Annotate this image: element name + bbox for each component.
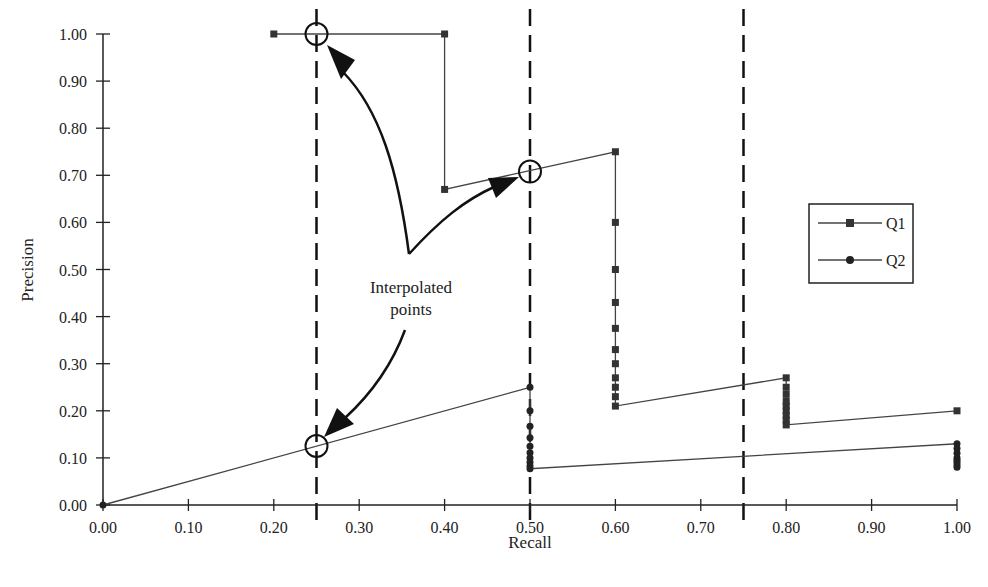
y-tick-label: 0.90 (59, 73, 87, 90)
annotation-arrow-right (409, 187, 494, 254)
arrowhead-icon (488, 177, 519, 198)
y-tick-label: 0.30 (59, 356, 87, 373)
arrowhead-icon (327, 45, 355, 79)
square-marker-icon (612, 360, 619, 367)
square-marker-icon (612, 346, 619, 353)
y-tick-label: 0.70 (59, 167, 87, 184)
square-marker-icon (612, 266, 619, 273)
annotation-arrow-lower (345, 330, 405, 418)
x-tick-label: 0.70 (687, 519, 715, 536)
y-tick-label: 0.40 (59, 309, 87, 326)
y-tick-label: 0.00 (59, 497, 87, 514)
circle-marker-icon (527, 465, 534, 472)
square-marker-icon (612, 374, 619, 381)
square-marker-icon (441, 31, 448, 38)
y-tick-label: 0.80 (59, 120, 87, 137)
square-marker-icon (783, 384, 790, 391)
circle-marker-icon (527, 434, 534, 441)
x-tick-label: 0.20 (260, 519, 288, 536)
x-tick-label: 0.90 (858, 519, 886, 536)
x-tick-label: 0.10 (174, 519, 202, 536)
square-marker-icon (612, 148, 619, 155)
circle-marker-icon (100, 502, 107, 509)
square-marker-icon (783, 391, 790, 398)
square-marker-icon (612, 393, 619, 400)
annotation-arrow-upper (343, 72, 409, 254)
square-marker-icon (612, 403, 619, 410)
y-tick-label: 0.60 (59, 214, 87, 231)
y-tick-label: 0.10 (59, 450, 87, 467)
square-marker-icon (612, 384, 619, 391)
legend-square-marker-icon (846, 219, 854, 227)
legend-label-q1: Q1 (886, 215, 906, 232)
square-marker-icon (783, 421, 790, 428)
square-marker-icon (270, 31, 277, 38)
square-marker-icon (612, 219, 619, 226)
x-axis-title: Recall (508, 533, 552, 552)
circle-marker-icon (527, 443, 534, 450)
square-marker-icon (612, 325, 619, 332)
y-tick-label: 0.50 (59, 262, 87, 279)
circle-marker-icon (527, 384, 534, 391)
square-marker-icon (441, 186, 448, 193)
x-tick-label: 0.80 (772, 519, 800, 536)
x-tick-label: 0.30 (345, 519, 373, 536)
annotation-label-line2: points (390, 300, 432, 319)
x-tick-label: 0.40 (431, 519, 459, 536)
legend-label-q2: Q2 (886, 252, 906, 269)
y-axis-title: Precision (18, 238, 37, 302)
x-tick-label: 0.60 (601, 519, 629, 536)
y-tick-label: 0.20 (59, 403, 87, 420)
square-marker-icon (783, 374, 790, 381)
circle-marker-icon (527, 407, 534, 414)
square-marker-icon (612, 299, 619, 306)
square-marker-icon (954, 407, 961, 414)
x-tick-label: 0.00 (89, 519, 117, 536)
legend-circle-marker-icon (846, 256, 854, 264)
circle-marker-icon (527, 423, 534, 430)
annotations: Interpolated points (306, 23, 542, 457)
precision-recall-chart: 0.000.100.200.300.400.500.600.700.800.90… (0, 0, 988, 587)
legend: Q1 Q2 (809, 204, 913, 283)
y-tick-label: 1.00 (59, 26, 87, 43)
annotation-label-line1: Interpolated (370, 278, 453, 297)
circle-marker-icon (954, 464, 961, 471)
x-tick-label: 1.00 (943, 519, 971, 536)
